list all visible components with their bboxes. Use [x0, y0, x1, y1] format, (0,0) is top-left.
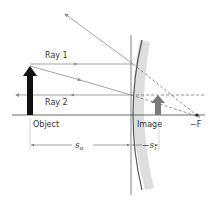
- convex-mirror-diagram: Ray 1 Ray 2 Object Image −F so −si: [0, 0, 220, 201]
- focal-point-label: −F: [190, 120, 202, 129]
- ray-2-incident: [30, 66, 131, 95]
- ray-2-label: Ray 2: [45, 98, 68, 107]
- object-distance-label: so: [75, 140, 84, 151]
- object-arrow: [23, 66, 37, 115]
- object-label: Object: [33, 120, 59, 129]
- image-label: Image: [137, 120, 162, 129]
- image-arrow: [151, 95, 165, 115]
- object-distance-subscript: o: [80, 144, 84, 151]
- image-distance-subscript: i: [154, 144, 156, 151]
- focal-point: [195, 113, 198, 116]
- ray-1-reflected: [65, 14, 133, 64]
- image-distance-label: −si: [142, 140, 156, 151]
- image-distance-symbol: −s: [142, 140, 155, 150]
- ray-1-label: Ray 1: [45, 51, 68, 60]
